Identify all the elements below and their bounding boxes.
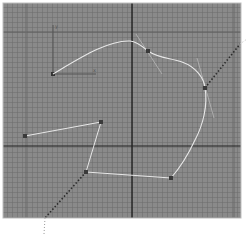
vertex-bezier-end[interactable] (169, 176, 173, 180)
gizmo-y-label: y (55, 23, 58, 30)
dotted-path-lower-left[interactable] (45, 172, 86, 218)
vertex-bezier-1[interactable] (146, 49, 150, 53)
dotted-path-lower-left-tail (44, 218, 45, 234)
transform-gizmo[interactable]: y x (51, 23, 96, 76)
vertex-linear-2[interactable] (99, 120, 103, 124)
bezier-spline[interactable] (53, 41, 206, 178)
dotted-path-upper-right[interactable] (205, 44, 240, 88)
vertex-bezier-2[interactable] (203, 86, 207, 90)
gizmo-x-label: x (93, 67, 96, 73)
vertex-linear-1[interactable] (23, 134, 27, 138)
linear-spline[interactable] (25, 122, 171, 178)
viewport-overlay[interactable]: y x (0, 0, 249, 234)
tangent-handle-1[interactable] (136, 34, 162, 74)
vertex-linear-3[interactable] (84, 170, 88, 174)
